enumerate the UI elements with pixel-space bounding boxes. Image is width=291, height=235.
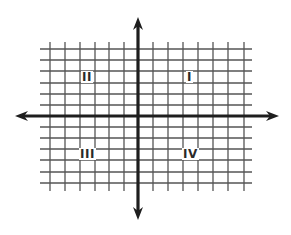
quadrant-label-iii: III bbox=[79, 148, 96, 160]
quadrant-label-ii: II bbox=[81, 71, 93, 83]
coordinate-plane bbox=[0, 0, 291, 235]
axes bbox=[15, 17, 279, 220]
quadrant-label-i: I bbox=[186, 71, 193, 83]
quadrant-label-iv: IV bbox=[182, 148, 199, 160]
